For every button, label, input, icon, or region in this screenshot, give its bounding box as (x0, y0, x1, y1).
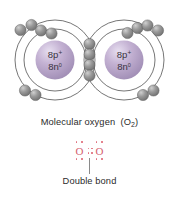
lone-pair-dot (96, 158, 98, 160)
electron (137, 89, 148, 100)
electron (122, 27, 133, 38)
lewis-left-oxygen-symbol: O (76, 145, 84, 157)
lone-pair-dot (76, 158, 78, 160)
right-nucleus: 8p+ 8n0 (105, 41, 144, 80)
bonding-pair-dot (91, 148, 93, 150)
bonding-pair-dot (88, 152, 90, 154)
lewis-right-oxygen: O (94, 144, 105, 158)
lone-pair-dot (96, 141, 98, 143)
molecule-caption-text: Molecular oxygen (41, 117, 115, 127)
molecule-formula-close: ) (135, 117, 138, 127)
shared-electron (84, 38, 95, 49)
molecule-formula-open: (O (121, 117, 132, 127)
electron (19, 85, 30, 96)
lewis-right-oxygen-symbol: O (96, 145, 104, 157)
left-nucleus: 8p+ 8n0 (36, 41, 75, 80)
oxygen-molecule-figure: 8p+ 8n0 8p+ 8n0 (0, 0, 179, 200)
electron (15, 24, 26, 35)
shared-electron (84, 70, 95, 81)
electron (132, 22, 143, 33)
electron (35, 25, 46, 36)
electron (142, 20, 153, 31)
lone-pair-dot (81, 141, 83, 143)
shared-electron (84, 59, 95, 70)
double-bond-caption: Double bond (0, 176, 179, 186)
lone-pair-dot (76, 141, 78, 143)
shared-electron (84, 49, 95, 60)
bonding-pair-dot (91, 152, 93, 154)
electron (46, 28, 57, 39)
lone-pair-dot (81, 158, 83, 160)
lone-pair-dot (101, 158, 103, 160)
lewis-left-oxygen: O (74, 144, 85, 158)
atom-diagram: 8p+ 8n0 8p+ 8n0 (0, 8, 179, 113)
leader-line (89, 158, 90, 174)
electron (30, 89, 41, 100)
lewis-structure-inner: O O (74, 141, 105, 159)
electron (152, 25, 163, 36)
molecule-caption: Molecular oxygen (O2) (0, 117, 179, 128)
electron (148, 85, 159, 96)
lone-pair-dot (101, 141, 103, 143)
bonding-pair-dot (88, 148, 90, 150)
lewis-double-bond-dots (85, 144, 94, 158)
